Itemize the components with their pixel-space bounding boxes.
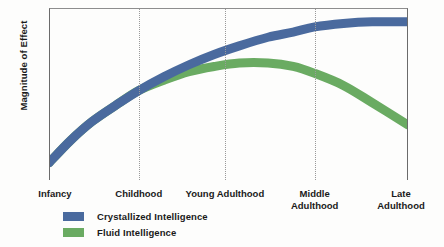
intelligence-lifespan-chart: Magnitude of Effect InfancyChildhoodYoun… (0, 0, 444, 247)
gridline (315, 8, 316, 180)
gridline (225, 8, 226, 180)
legend-label: Crystallized Intelligence (97, 211, 208, 222)
legend-item[interactable]: Crystallized Intelligence (63, 208, 208, 224)
legend-item[interactable]: Fluid Intelligence (63, 224, 208, 240)
legend-label: Fluid Intelligence (97, 227, 176, 238)
x-tick-label: Young Adulthood (186, 188, 265, 200)
chart-curves (49, 8, 408, 180)
x-tick-label: Late Adulthood (377, 188, 424, 211)
legend-color-swatch (63, 228, 84, 237)
x-tick-label: Infancy (38, 188, 71, 200)
y-axis-title: Magnitude of Effect (18, 6, 29, 126)
legend-color-swatch (63, 212, 84, 221)
plot-area (49, 8, 408, 180)
x-tick-label: Middle Adulthood (291, 188, 338, 211)
chart-legend: Crystallized IntelligenceFluid Intellige… (63, 208, 208, 240)
x-tick-label: Childhood (115, 188, 162, 200)
gridline (139, 8, 140, 180)
